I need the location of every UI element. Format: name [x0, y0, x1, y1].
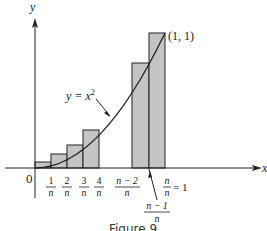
- tick-4-over-n: 4 n: [94, 175, 104, 198]
- svg-text:n: n: [82, 187, 87, 198]
- tick-3-over-n: 3 n: [79, 175, 89, 198]
- svg-text:2: 2: [65, 175, 70, 186]
- svg-text:n − 1: n − 1: [146, 200, 168, 211]
- svg-text:= 1: = 1: [173, 181, 187, 193]
- svg-text:n − 2: n − 2: [116, 175, 138, 186]
- svg-text:n: n: [165, 175, 170, 186]
- tick-n-minus-2-over-n: n − 2 n: [115, 175, 140, 198]
- bars: [35, 33, 165, 168]
- origin-label: 0: [26, 171, 33, 186]
- curve-label: y = x2: [65, 88, 95, 103]
- bar-n: [149, 33, 165, 168]
- x-axis-label: x: [261, 161, 267, 175]
- svg-text:n: n: [165, 187, 170, 198]
- svg-text:4: 4: [97, 175, 102, 186]
- svg-text:1: 1: [49, 175, 54, 186]
- tick-labels: 1 n 2 n 3 n 4 n n − 2 n n − 1: [46, 169, 187, 224]
- svg-text:3: 3: [82, 175, 87, 186]
- svg-text:n: n: [49, 187, 54, 198]
- bar-4: [83, 130, 99, 168]
- tick-1-over-n: 1 n: [46, 175, 56, 198]
- point-label: (1, 1): [168, 29, 194, 43]
- tick-2-over-n: 2 n: [62, 175, 72, 198]
- curve-pointer-arrow-icon: [104, 111, 110, 117]
- svg-text:n: n: [65, 187, 70, 198]
- y-axis-label: y: [29, 0, 36, 14]
- figure-caption: Figure 9: [109, 222, 157, 231]
- riemann-sum-diagram: y x 0 y = x2 (1, 1) 1 n 2 n 3 n 4 n n − …: [0, 0, 267, 231]
- bar-3: [67, 145, 83, 168]
- svg-text:n: n: [97, 187, 102, 198]
- svg-text:n: n: [125, 187, 130, 198]
- tick-n-over-n: n n = 1: [163, 175, 187, 198]
